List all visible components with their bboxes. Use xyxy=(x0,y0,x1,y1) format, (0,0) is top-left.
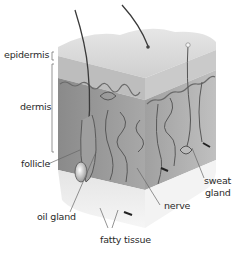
label-epidermis: epidermis xyxy=(4,49,49,60)
label-sweat-gland-line2: gland xyxy=(205,187,231,198)
label-nerve: nerve xyxy=(164,200,190,211)
label-fatty-tissue: fatty tissue xyxy=(100,234,151,245)
oil-gland xyxy=(75,162,87,182)
label-dermis: dermis xyxy=(20,101,51,112)
skin-block-illustration xyxy=(0,0,234,255)
skin-diagram: epidermis dermis follicle oil gland fatt… xyxy=(0,0,234,255)
label-sweat-gland-line1: sweat xyxy=(204,175,231,186)
label-follicle: follicle xyxy=(21,158,50,169)
label-oil-gland: oil gland xyxy=(37,211,76,222)
